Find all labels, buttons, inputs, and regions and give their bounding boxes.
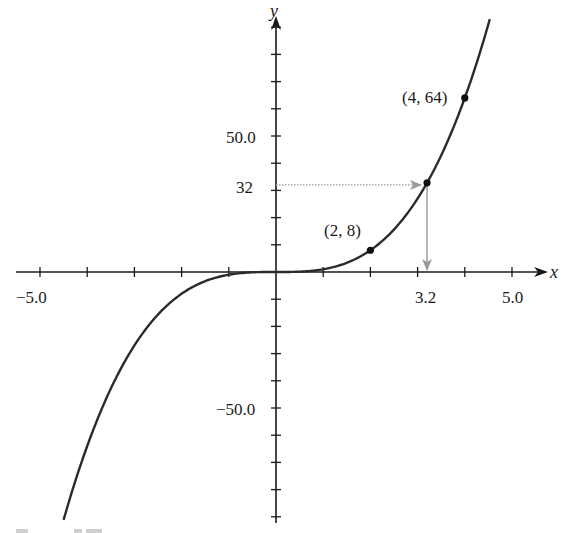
cropped-caption xyxy=(16,529,102,533)
point-label-2-8: (2, 8) xyxy=(324,221,361,240)
x-tick-label-neg5: −5.0 xyxy=(16,288,47,307)
x-tick-label-3-2: 3.2 xyxy=(415,288,436,307)
x-axis-label: x xyxy=(549,262,558,282)
highlighted-points xyxy=(367,94,469,254)
y-tick-label-32: 32 xyxy=(236,178,253,197)
data-point xyxy=(423,179,430,186)
cubic-function-plot: x y −5.0 3.2 5.0 50.0 32 −50.0 (2, 8) (4… xyxy=(0,0,566,533)
y-axis-label: y xyxy=(268,1,278,21)
point-label-4-64: (4, 64) xyxy=(402,88,447,107)
x-tick-label-5: 5.0 xyxy=(502,288,523,307)
y-tick-label-50: 50.0 xyxy=(226,128,256,147)
y-tick-label-neg50: −50.0 xyxy=(216,400,255,419)
data-point xyxy=(461,94,468,101)
data-point xyxy=(367,247,374,254)
